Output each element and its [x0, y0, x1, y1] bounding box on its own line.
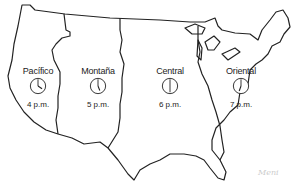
zone-time: 4 p.m.: [20, 100, 56, 109]
zone-central: Central 6 p.m.: [152, 66, 188, 109]
zone-time: 6 p.m.: [152, 100, 188, 109]
clock-icon: [232, 77, 250, 95]
zone-name: Central: [152, 66, 188, 76]
time-zone-map: Pacífico 4 p.m. Montaña 5 p.m. Central 6…: [0, 0, 300, 192]
signature: Meni: [258, 168, 279, 177]
clock-icon: [29, 77, 47, 95]
zone-name: Oriental: [221, 66, 261, 76]
clock-icon: [161, 77, 179, 95]
zone-time: 7 p.m.: [221, 100, 261, 109]
clock-icon: [89, 77, 107, 95]
zone-name: Pacífico: [20, 66, 56, 76]
zone-mountain: Montaña 5 p.m.: [78, 66, 118, 109]
zone-eastern: Oriental 7 p.m.: [221, 66, 261, 109]
zone-pacific: Pacífico 4 p.m.: [20, 66, 56, 109]
zone-time: 5 p.m.: [78, 100, 118, 109]
zone-name: Montaña: [78, 66, 118, 76]
